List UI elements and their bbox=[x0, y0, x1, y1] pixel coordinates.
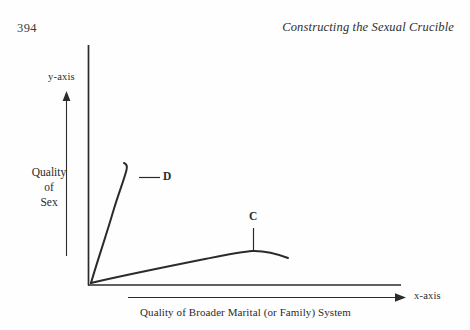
book-page: 394 Constructing the Sexual Crucible y-a… bbox=[0, 0, 470, 330]
y-axis-label: y-axis bbox=[48, 71, 75, 82]
y-axis-caption-line-3: Sex bbox=[22, 195, 76, 210]
y-axis-caption: Quality of Sex bbox=[22, 165, 76, 210]
y-axis-caption-line-2: of bbox=[22, 180, 76, 195]
y-axis-caption-line-1: Quality bbox=[22, 165, 76, 180]
x-axis-caption: Quality of Broader Marital (or Family) S… bbox=[140, 306, 351, 318]
y-axis-arrowhead-icon bbox=[63, 91, 71, 101]
curve-d-label: D bbox=[163, 170, 171, 182]
x-axis-arrowhead-icon bbox=[395, 293, 406, 301]
curve-c-label: C bbox=[249, 210, 257, 222]
curve-c-path bbox=[91, 251, 288, 283]
curve-d-path bbox=[91, 163, 127, 283]
x-axis-label: x-axis bbox=[414, 290, 441, 301]
figure-graph: y-axis x-axis Quality of Sex Quality of … bbox=[0, 0, 470, 330]
